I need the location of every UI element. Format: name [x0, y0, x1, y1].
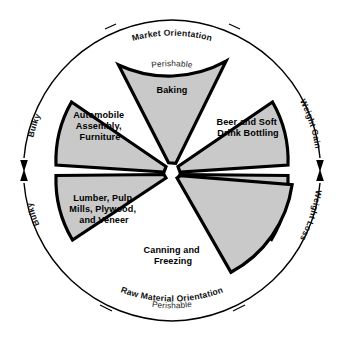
- wedge-baking-label: Baking: [157, 85, 188, 95]
- arrow-up-right-icon: [316, 169, 324, 181]
- wedge-lumber-pulp-mills-plywood-and-veneer[interactable]: Lumber, Pulp Mills, Plywood, and Veneer: [56, 175, 166, 241]
- tick-bottom-left: [100, 305, 112, 311]
- ring-label-group: Market Orientation Perishable Raw Materi…: [24, 28, 324, 311]
- wedge-canning-and-freezing-label: Canning and Freezing: [144, 245, 203, 266]
- arrow-up-left-icon: [20, 169, 28, 181]
- label-raw-material-orientation: Raw Material Orientation: [120, 285, 225, 304]
- wedge-lumber-pulp-mills-plywood-and-veneer-label: Lumber, Pulp Mills, Plywood, and Veneer: [69, 193, 138, 225]
- wedge-beer-and-soft-drink-bottling-label: Beer and Soft Drink Bottling: [216, 117, 279, 138]
- label-weight-gain: Weight Gain: [298, 97, 323, 149]
- wedge-group: Baking Beer and Soft Drink Bottling Copp…: [56, 18, 315, 272]
- tick-top-left: [105, 24, 116, 29]
- orientation-wheel-diagram: Baking Beer and Soft Drink Bottling Copp…: [0, 0, 345, 337]
- label-market-orientation: Market Orientation: [131, 28, 214, 43]
- label-bulky-upper-left: Bulky: [25, 112, 42, 138]
- label-bulky-lower-left: Bulky: [24, 202, 41, 228]
- wedge-automobile-assembly-furniture-label: Automobile Assembly, Furniture: [73, 110, 127, 142]
- label-perishable-top: Perishable: [151, 59, 194, 70]
- tick-top-right: [229, 24, 240, 29]
- wheel-svg: Baking Beer and Soft Drink Bottling Copp…: [0, 0, 345, 337]
- label-weight-loss: Weight Loss: [298, 190, 324, 243]
